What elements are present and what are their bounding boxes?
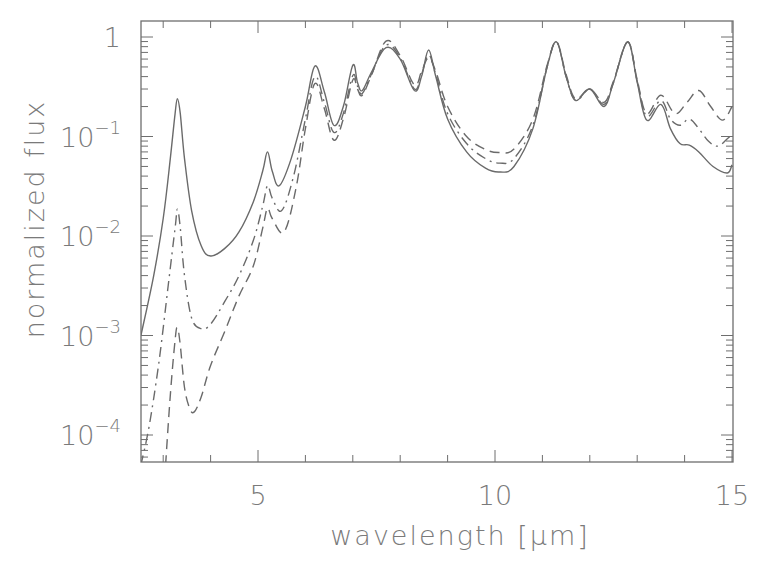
x-axis-ticks xyxy=(163,21,732,462)
y-tick-label: 10−2 xyxy=(60,216,121,252)
x-tick-label: 5 xyxy=(249,480,266,511)
chart: 51015 110−110−210−310−4 wavelength [μm] … xyxy=(0,0,768,570)
y-tick-label: 1 xyxy=(104,22,121,53)
y-axis-label: normalized flux xyxy=(19,100,50,339)
y-tick-label: 10−3 xyxy=(60,316,121,352)
x-axis-label: wavelength [μm] xyxy=(330,520,589,551)
x-tick-label: 15 xyxy=(715,480,749,511)
x-axis-tick-labels: 51015 xyxy=(249,480,749,511)
y-tick-label: 10−1 xyxy=(60,117,121,153)
plot-curves xyxy=(141,40,732,465)
series-solid xyxy=(141,42,732,336)
series-dashed xyxy=(166,40,732,465)
y-axis-ticks xyxy=(141,37,733,457)
y-tick-label: 10−4 xyxy=(60,415,121,451)
x-tick-label: 10 xyxy=(478,480,512,511)
y-axis-tick-labels: 110−110−210−310−4 xyxy=(60,22,121,451)
plot-frame xyxy=(141,21,733,462)
